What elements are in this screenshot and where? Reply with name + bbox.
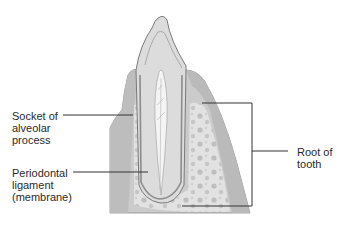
label-line: alveolar — [12, 122, 58, 134]
label-line: Periodontal — [12, 167, 72, 179]
label-line: (membrane) — [12, 191, 72, 203]
label-line: ligament — [12, 179, 72, 191]
label-line: Root of — [297, 146, 332, 158]
label-line: Socket of — [12, 110, 58, 122]
label-root-of-tooth: Root of tooth — [297, 146, 332, 170]
label-socket-of-alveolar-process: Socket of alveolar process — [12, 110, 58, 146]
label-line: process — [12, 134, 58, 146]
label-line: tooth — [297, 158, 332, 170]
label-periodontal-ligament: Periodontal ligament (membrane) — [12, 167, 72, 203]
